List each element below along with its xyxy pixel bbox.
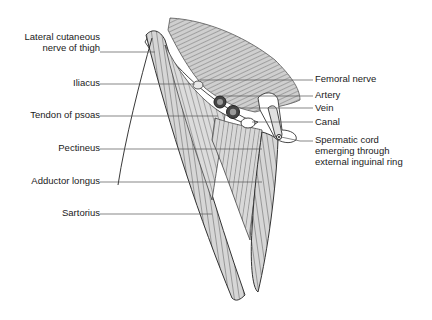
label-canal: Canal — [315, 116, 340, 127]
label-sartorius: Sartorius — [4, 207, 100, 218]
label-artery: Artery — [315, 89, 340, 100]
label-spermatic-cord: Spermatic cord emerging through external… — [315, 134, 403, 167]
label-pectineus: Pectineus — [4, 142, 100, 153]
lateral-cutaneous-nerve-line — [118, 38, 152, 185]
label-femoral-nerve: Femoral nerve — [315, 73, 376, 84]
label-lateral-cutaneous-nerve: Lateral cutaneous nerve of thigh — [4, 31, 100, 53]
femoral-canal-shape — [241, 118, 255, 128]
label-tendon-of-psoas: Tendon of psoas — [4, 109, 100, 120]
label-adductor-longus: Adductor longus — [4, 175, 100, 186]
label-iliacus: Iliacus — [4, 77, 100, 88]
label-vein: Vein — [315, 102, 334, 113]
femoral-nerve-shape — [193, 81, 203, 89]
